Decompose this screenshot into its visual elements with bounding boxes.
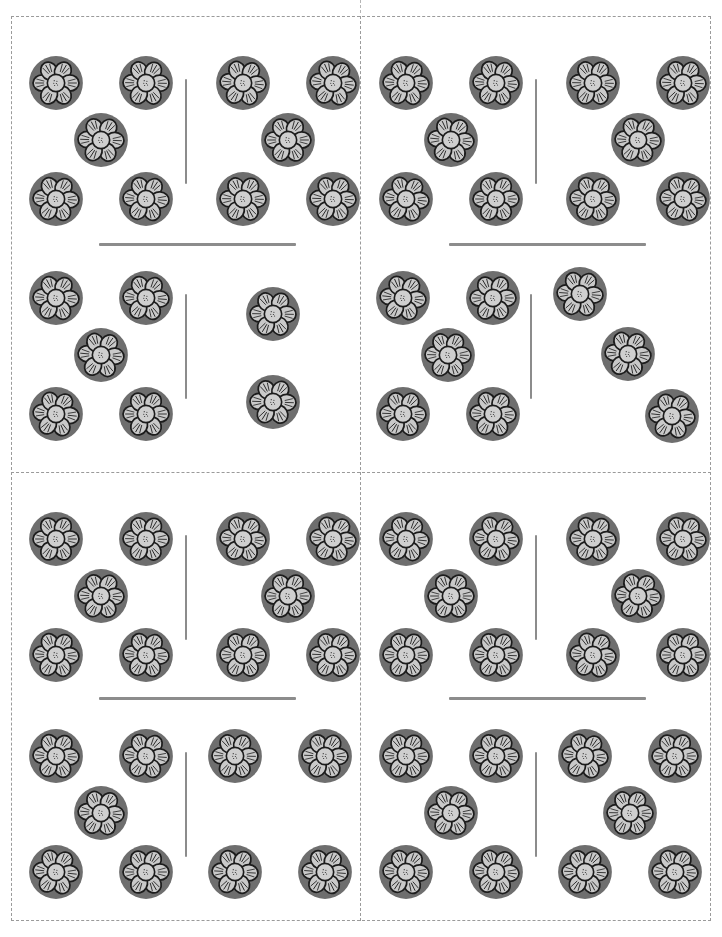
flower-token-icon	[245, 374, 301, 430]
flower-token-icon	[207, 844, 263, 900]
flower-token-icon	[557, 728, 613, 784]
flower-token-icon	[468, 728, 524, 784]
vertical-split-line	[535, 752, 537, 857]
token-group	[361, 708, 711, 908]
flower-token-icon	[468, 844, 524, 900]
flower-token-icon	[118, 844, 174, 900]
flower-token-icon	[297, 728, 353, 784]
flower-token-icon	[118, 55, 174, 111]
flower-token-icon	[245, 286, 301, 342]
flower-token-icon	[28, 844, 84, 900]
flower-token-icon	[610, 568, 666, 624]
group-divider-line	[449, 697, 646, 700]
flower-token-icon	[600, 326, 656, 382]
flower-token-icon	[378, 55, 434, 111]
flower-token-icon	[644, 388, 700, 444]
flower-token-icon	[73, 785, 129, 841]
flower-token-icon	[610, 112, 666, 168]
flower-token-icon	[28, 511, 84, 567]
card-bottom-left[interactable]	[11, 473, 361, 925]
flower-token-icon	[28, 386, 84, 442]
flower-token-icon	[465, 270, 521, 326]
card-bottom-right[interactable]	[361, 473, 711, 925]
flower-token-icon	[655, 511, 711, 567]
flower-token-icon	[655, 171, 711, 227]
flower-token-icon	[375, 386, 431, 442]
flower-token-icon	[118, 511, 174, 567]
flower-token-icon	[73, 112, 129, 168]
flower-token-icon	[215, 55, 271, 111]
flower-token-icon	[118, 728, 174, 784]
flower-token-icon	[655, 627, 711, 683]
vertical-split-line	[185, 294, 187, 399]
flower-token-icon	[260, 112, 316, 168]
flower-token-icon	[378, 627, 434, 683]
flower-token-icon	[73, 327, 129, 383]
flower-token-icon	[118, 627, 174, 683]
token-group	[361, 487, 711, 687]
token-group	[361, 252, 711, 452]
flower-token-icon	[565, 55, 621, 111]
flower-token-icon	[378, 511, 434, 567]
vertical-split-line	[535, 79, 537, 184]
flower-token-icon	[565, 171, 621, 227]
token-group	[11, 31, 361, 231]
flower-token-icon	[423, 785, 479, 841]
flower-token-icon	[647, 844, 703, 900]
flower-token-icon	[207, 728, 263, 784]
flower-token-icon	[552, 266, 608, 322]
flower-token-icon	[260, 568, 316, 624]
group-divider-line	[99, 697, 296, 700]
flower-token-icon	[420, 327, 476, 383]
crop-tick-mark	[360, 0, 361, 13]
vertical-split-line	[185, 79, 187, 184]
flower-token-icon	[468, 171, 524, 227]
flower-token-icon	[118, 386, 174, 442]
flower-token-icon	[565, 627, 621, 683]
flower-token-icon	[28, 627, 84, 683]
flower-token-icon	[378, 728, 434, 784]
flower-token-icon	[655, 55, 711, 111]
flower-token-icon	[423, 568, 479, 624]
flower-token-icon	[28, 728, 84, 784]
token-group	[11, 252, 361, 452]
flower-token-icon	[468, 627, 524, 683]
flower-token-icon	[215, 627, 271, 683]
group-divider-line	[449, 243, 646, 246]
token-group	[361, 31, 711, 231]
flower-token-icon	[305, 171, 361, 227]
flower-token-icon	[297, 844, 353, 900]
flower-token-icon	[215, 171, 271, 227]
vertical-split-line	[530, 294, 532, 399]
flower-token-icon	[28, 270, 84, 326]
flower-token-icon	[378, 171, 434, 227]
flower-token-icon	[423, 112, 479, 168]
vertical-split-line	[535, 535, 537, 640]
flower-token-icon	[305, 511, 361, 567]
flower-token-icon	[647, 728, 703, 784]
card-top-right[interactable]	[361, 17, 711, 469]
flower-token-icon	[557, 844, 613, 900]
flower-token-icon	[305, 627, 361, 683]
flower-token-icon	[28, 55, 84, 111]
flower-token-icon	[73, 568, 129, 624]
flower-token-icon	[602, 785, 658, 841]
card-top-left[interactable]	[11, 17, 361, 469]
flower-token-icon	[468, 55, 524, 111]
flower-token-icon	[565, 511, 621, 567]
vertical-split-line	[185, 752, 187, 857]
flower-token-icon	[118, 270, 174, 326]
token-group	[11, 708, 361, 908]
token-group	[11, 487, 361, 687]
vertical-split-line	[185, 535, 187, 640]
flower-token-icon	[378, 844, 434, 900]
worksheet-sheet	[0, 0, 722, 937]
flower-token-icon	[468, 511, 524, 567]
flower-token-icon	[118, 171, 174, 227]
flower-token-icon	[215, 511, 271, 567]
flower-token-icon	[465, 386, 521, 442]
flower-token-icon	[375, 270, 431, 326]
flower-token-icon	[305, 55, 361, 111]
flower-token-icon	[28, 171, 84, 227]
group-divider-line	[99, 243, 296, 246]
